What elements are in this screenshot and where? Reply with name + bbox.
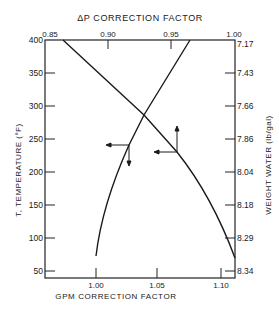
right-tick-label: 7.86 bbox=[237, 134, 254, 144]
right-tick-label: 7.17 bbox=[237, 39, 254, 49]
left-tick-label: 250 bbox=[29, 134, 43, 144]
top-tick-label: 0.85 bbox=[42, 30, 58, 39]
correction-factor-chart: ΔP CORRECTION FACTOR 0.85 0.90 0.95 1.00… bbox=[0, 0, 279, 311]
left-tick-label: 300 bbox=[29, 101, 43, 111]
left-tick-label: 400 bbox=[29, 35, 43, 45]
bottom-axis-title: GPM CORRECTION FACTOR bbox=[55, 292, 176, 301]
bottom-tick-label: 1.00 bbox=[88, 281, 104, 290]
arrow-down-icon bbox=[127, 161, 131, 166]
bottom-tick-labels: 1.00 1.05 1.10 bbox=[88, 281, 229, 290]
left-tick-label: 350 bbox=[29, 68, 43, 78]
right-tick-label: 8.29 bbox=[237, 233, 254, 243]
right-tick-labels: 7.17 7.43 7.66 7.86 8.04 8.18 8.29 8.34 bbox=[237, 39, 254, 276]
left-tick-label: 100 bbox=[29, 233, 43, 243]
arrow-up-icon bbox=[175, 126, 179, 131]
arrow-left-icon bbox=[154, 150, 159, 154]
bottom-tick-label: 1.05 bbox=[149, 281, 165, 290]
delta-p-curve bbox=[63, 40, 235, 258]
left-tick-label: 50 bbox=[34, 266, 44, 276]
top-tick-label: 0.90 bbox=[100, 30, 116, 39]
left-tick-label: 200 bbox=[29, 167, 43, 177]
right-tick-label: 8.04 bbox=[237, 167, 254, 177]
gpm-curve bbox=[96, 40, 190, 256]
left-tick-label: 150 bbox=[29, 200, 43, 210]
right-tick-label: 7.43 bbox=[237, 68, 254, 78]
top-tick-label: 1.00 bbox=[226, 30, 242, 39]
plot-frame bbox=[45, 40, 235, 278]
left-axis-title: T, TEMPERATURE (°F) bbox=[14, 123, 23, 216]
bottom-axis bbox=[96, 268, 221, 278]
gpm-arrow-indicator bbox=[106, 143, 131, 166]
right-axis-title: WEIGHT WATER (lb/gal) bbox=[264, 115, 273, 214]
top-axis bbox=[108, 40, 171, 49]
right-tick-label: 8.34 bbox=[237, 266, 254, 276]
left-tick-labels: 400 350 300 250 200 150 100 50 bbox=[29, 35, 43, 276]
top-tick-labels: 0.85 0.90 0.95 1.00 bbox=[42, 30, 242, 39]
right-tick-label: 8.18 bbox=[237, 200, 254, 210]
left-axis bbox=[45, 73, 55, 271]
right-axis bbox=[225, 73, 235, 271]
arrow-left-icon bbox=[106, 143, 111, 147]
top-axis-title: ΔP CORRECTION FACTOR bbox=[77, 13, 203, 23]
right-tick-label: 7.66 bbox=[237, 101, 254, 111]
bottom-tick-label: 1.10 bbox=[213, 281, 229, 290]
top-tick-label: 0.95 bbox=[163, 30, 179, 39]
